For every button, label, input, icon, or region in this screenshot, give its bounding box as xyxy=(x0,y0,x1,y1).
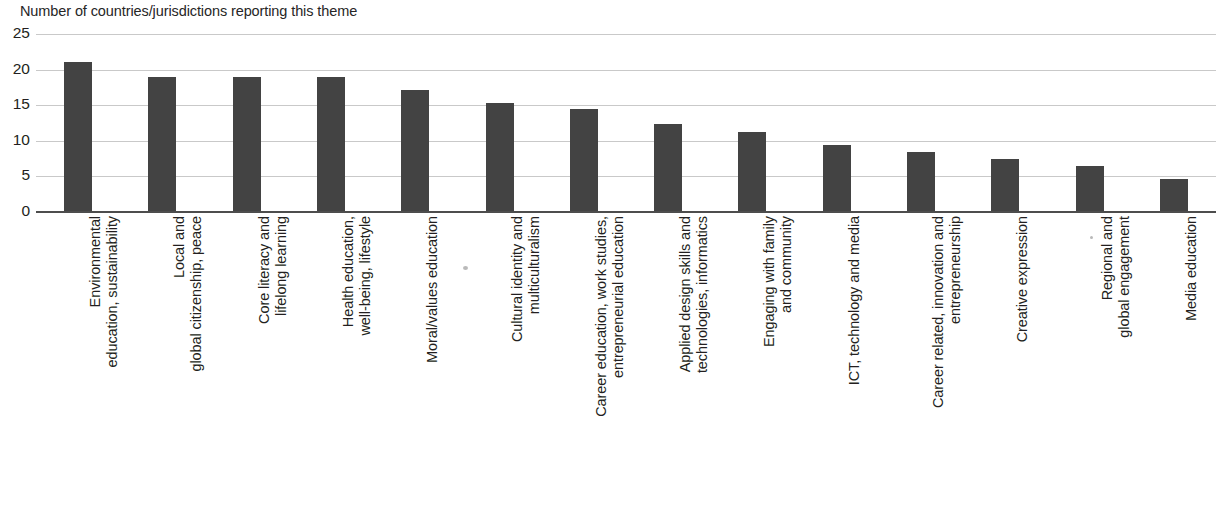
bar xyxy=(1076,166,1104,212)
category-label: Local and global citizenship, peace xyxy=(171,216,205,506)
category-label: Media education xyxy=(1183,216,1200,506)
bar xyxy=(148,77,176,212)
scan-speck xyxy=(1090,236,1093,239)
plot-area: 0510152025 xyxy=(36,34,1216,212)
bar xyxy=(1160,179,1188,212)
bar xyxy=(823,145,851,212)
category-label: Career related, innovation and entrepren… xyxy=(930,216,964,506)
y-axis-tick-label: 20 xyxy=(0,61,30,77)
category-label: Core literacy and lifelong learning xyxy=(256,216,290,506)
y-axis-tick-label: 5 xyxy=(0,167,30,183)
category-label: Cultural identity and multiculturalism xyxy=(509,216,543,506)
bar xyxy=(991,159,1019,212)
category-labels: Environmental education, sustainabilityL… xyxy=(36,216,1216,506)
scan-speck xyxy=(463,266,468,270)
category-label: Health education, well-being, lifestyle xyxy=(340,216,374,506)
bar xyxy=(64,62,92,212)
category-label: Environmental education, sustainability xyxy=(87,216,121,506)
category-label: Moral/values education xyxy=(424,216,441,506)
bar xyxy=(233,77,261,212)
y-axis-tick-label: 25 xyxy=(0,25,30,41)
bar xyxy=(317,77,345,212)
category-label: Applied design skills and technologies, … xyxy=(677,216,711,506)
bar xyxy=(738,132,766,212)
category-label: Creative expression xyxy=(1014,216,1031,506)
category-label: Engaging with family and community xyxy=(761,216,795,506)
y-axis-tick-label: 10 xyxy=(0,132,30,148)
bars-layer xyxy=(36,34,1216,212)
category-label: ICT, technology and media xyxy=(846,216,863,506)
y-axis-tick-label: 0 xyxy=(0,203,30,219)
bar xyxy=(654,124,682,212)
bar xyxy=(570,109,598,212)
category-label: Career education, work studies, entrepre… xyxy=(593,216,627,506)
bar xyxy=(486,103,514,212)
bar xyxy=(907,152,935,212)
category-label: Regional and global engagement xyxy=(1099,216,1133,506)
bar-chart: Number of countries/jurisdictions report… xyxy=(0,0,1220,506)
bar xyxy=(401,90,429,212)
chart-title: Number of countries/jurisdictions report… xyxy=(20,2,357,20)
y-axis-tick-label: 15 xyxy=(0,96,30,112)
x-axis-line xyxy=(36,211,1216,213)
